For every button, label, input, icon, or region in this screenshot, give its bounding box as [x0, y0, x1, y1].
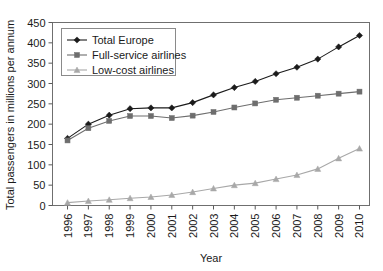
x-tick-label: 2009	[333, 214, 345, 238]
data-point-marker	[148, 114, 153, 119]
legend-item-label: Full-service airlines	[92, 49, 187, 61]
data-point-marker	[274, 97, 279, 102]
x-axis-title: Year	[200, 252, 223, 264]
y-tick-label: 400	[27, 37, 45, 49]
y-axis-title: Total passengers in millions per annum	[4, 20, 16, 210]
x-axis-title-group: Year	[200, 252, 223, 264]
y-axis-title-group: Total passengers in millions per annum	[4, 20, 16, 210]
chart-legend: Total EuropeFull-service airlinesLow-cos…	[62, 29, 187, 77]
data-point-marker	[128, 114, 133, 119]
data-point-marker	[357, 89, 362, 94]
data-point-marker	[211, 109, 216, 114]
y-tick-label: 350	[27, 57, 45, 69]
data-point-marker	[169, 116, 174, 121]
y-tick-label: 200	[27, 118, 45, 130]
x-tick-label: 2007	[291, 214, 303, 238]
x-tick-label: 2010	[353, 214, 365, 238]
y-tick-label: 100	[27, 159, 45, 171]
data-point-marker	[65, 138, 70, 143]
x-tick-label: 1996	[62, 214, 74, 238]
x-tick-label: 1998	[103, 214, 115, 238]
data-point-marker	[336, 91, 341, 96]
chart-container: Total passengers in millions per annum 0…	[0, 0, 383, 271]
data-point-marker	[253, 101, 258, 106]
y-tick-label: 150	[27, 139, 45, 151]
data-point-marker	[75, 53, 80, 58]
y-tick-label: 450	[27, 17, 45, 29]
data-point-marker	[315, 93, 320, 98]
y-tick-label: 250	[27, 98, 45, 110]
y-tick-label: 0	[39, 200, 45, 212]
legend-item-label: Low-cost airlines	[92, 64, 174, 76]
data-point-marker	[232, 105, 237, 110]
line-chart: Total passengers in millions per annum 0…	[0, 0, 383, 271]
legend-item-label: Total Europe	[92, 34, 154, 46]
x-tick-label: 2003	[208, 214, 220, 238]
x-tick-label: 2000	[145, 214, 157, 238]
x-tick-label: 2005	[249, 214, 261, 238]
data-point-marker	[294, 95, 299, 100]
x-tick-label: 2004	[228, 214, 240, 238]
x-tick-label: 2008	[312, 214, 324, 238]
x-tick-label: 1999	[124, 214, 136, 238]
x-tick-label: 2006	[270, 214, 282, 238]
x-tick-label: 2002	[187, 214, 199, 238]
x-tick-label: 1997	[82, 214, 94, 238]
x-tick-label: 2001	[166, 214, 178, 238]
y-tick-label: 50	[33, 179, 45, 191]
y-tick-label: 300	[27, 78, 45, 90]
data-point-marker	[190, 113, 195, 118]
data-point-marker	[86, 126, 91, 131]
data-point-marker	[107, 118, 112, 123]
